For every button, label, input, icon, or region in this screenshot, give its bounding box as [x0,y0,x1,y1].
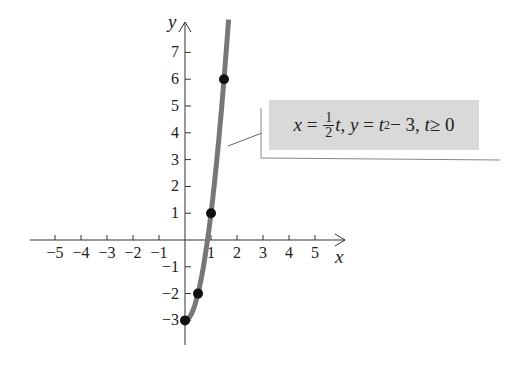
x-tick-label: −4 [72,244,89,261]
eq-sep-2: , [415,114,420,136]
y-tick-label: 1 [171,204,179,221]
y-tick-label: 5 [171,97,179,114]
parametric-curve [185,20,229,321]
y-tick-label: −1 [162,258,179,275]
eq-equals-2: = [363,114,374,136]
eq-condition: ≥ 0 [430,114,455,136]
y-tick-label: 4 [171,124,179,141]
parametric-plot: −5−4−3−2−112345−3−2−11234567 x y [0,0,529,370]
eq-y-lhs: y [350,114,358,136]
x-tick-label: 4 [285,244,293,261]
x-tick-label: 2 [233,244,241,261]
x-tick-label: 5 [311,244,319,261]
y-axis-label: y [166,11,177,32]
y-tick-label: −2 [162,285,179,302]
frac-numerator: 1 [323,111,334,126]
y-tick-label: 2 [171,177,179,194]
y-tick-label: 6 [171,70,179,87]
axes [30,22,345,345]
x-tick-label: −3 [98,244,115,261]
eq-minus-three: − 3 [390,114,415,136]
x-axis-label: x [334,246,344,267]
callout-bracket-horizontal [261,158,500,160]
eq-equals-1: = [307,114,318,136]
y-tick-label: 7 [171,43,179,60]
data-point [219,74,229,84]
fraction-one-half: 12 [323,111,334,140]
x-tick-label: 3 [259,244,267,261]
frac-denominator: 2 [323,126,334,140]
equation-box: x = 12t, y = t2 − 3, t ≥ 0 [269,100,479,150]
y-tick-label: −3 [162,311,179,328]
eq-sep-1: , [341,114,346,136]
data-point [193,289,203,299]
data-point [180,315,190,325]
x-tick-label: −5 [46,244,63,261]
tick-labels: −5−4−3−2−112345−3−2−11234567 [46,43,319,328]
x-tick-label: −2 [124,244,141,261]
eq-x-lhs: x [294,114,302,136]
callout-leader-line [228,133,262,146]
y-tick-label: 3 [171,151,179,168]
data-point [206,208,216,218]
